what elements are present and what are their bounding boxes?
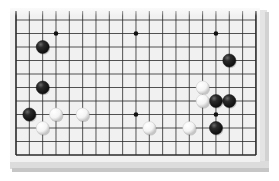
- board-top-fade: [8, 4, 260, 16]
- go-board-diagram: [0, 0, 279, 181]
- star-point: [134, 31, 139, 36]
- star-point: [214, 31, 219, 36]
- star-point: [134, 112, 139, 117]
- go-board: [0, 0, 279, 181]
- star-point: [214, 112, 219, 117]
- star-point: [54, 31, 59, 36]
